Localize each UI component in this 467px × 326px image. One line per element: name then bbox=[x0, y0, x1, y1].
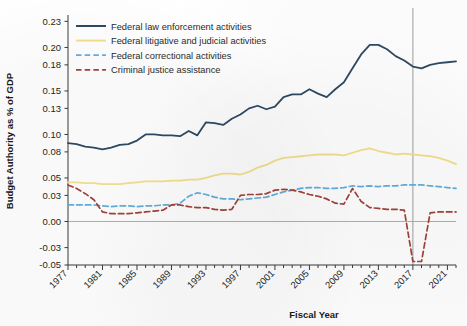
y-axis-tick-label: 0.18 bbox=[43, 59, 62, 70]
legend-label-1: Federal litigative and judicial activiti… bbox=[111, 36, 266, 46]
y-axis-tick-label: -0.03 bbox=[39, 242, 61, 253]
y-axis-tick-label: 0.00 bbox=[43, 216, 62, 227]
y-axis-tick-label: 0.05 bbox=[43, 172, 62, 183]
y-axis-tick-label: 0.20 bbox=[43, 42, 62, 53]
legend-label-2: Federal correctional activities bbox=[111, 51, 232, 61]
y-axis-tick-label: 0.03 bbox=[43, 190, 62, 201]
legend-label-0: Federal law enforcement activities bbox=[111, 22, 252, 32]
y-axis-title: Budget Authority as % of GDP bbox=[4, 72, 15, 209]
y-axis-tick-label: 0.10 bbox=[43, 129, 62, 140]
y-axis-tick-label: 0.23 bbox=[43, 16, 62, 27]
x-axis-title: Fiscal Year bbox=[289, 309, 339, 320]
legend-label-3: Criminal justice assistance bbox=[111, 65, 221, 75]
chart-figure: 0.230.200.180.150.130.100.080.050.030.00… bbox=[0, 0, 467, 326]
y-axis-tick-label: -0.05 bbox=[39, 259, 61, 270]
line-chart-canvas: 0.230.200.180.150.130.100.080.050.030.00… bbox=[0, 0, 467, 326]
y-axis-tick-label: 0.13 bbox=[43, 103, 62, 114]
y-axis-tick-label: 0.08 bbox=[43, 146, 62, 157]
y-axis-tick-label: 0.15 bbox=[43, 85, 62, 96]
